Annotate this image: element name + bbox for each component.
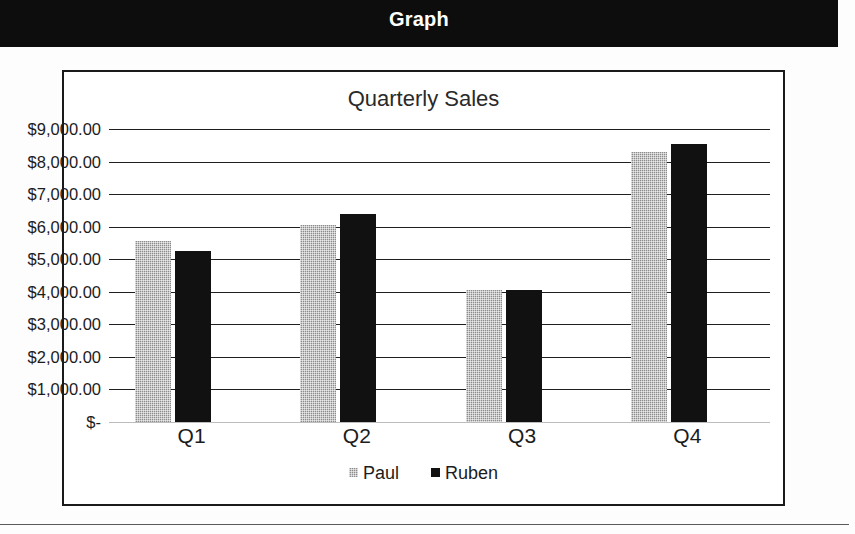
legend-item-ruben: Ruben xyxy=(431,462,498,484)
bar-ruben-q3 xyxy=(506,290,542,422)
x-axis-tick-label: Q3 xyxy=(440,424,605,448)
legend-swatch-paul-icon xyxy=(349,468,358,477)
legend-item-paul: Paul xyxy=(349,462,399,484)
y-axis-tick-label: $8,000.00 xyxy=(0,152,101,171)
bar-paul-q2 xyxy=(300,225,336,422)
bar-group xyxy=(274,133,439,422)
x-axis-tick-label: Q4 xyxy=(605,424,770,448)
x-axis-tick-label: Q1 xyxy=(109,424,274,448)
y-axis-tick-label: $9,000.00 xyxy=(0,120,101,139)
page-bottom-rule xyxy=(0,524,849,525)
bar-ruben-q1 xyxy=(175,251,211,422)
bar-ruben-q2 xyxy=(340,214,376,422)
page-header-band: Graph xyxy=(0,0,838,47)
bar-group xyxy=(109,133,274,422)
gridline xyxy=(109,422,770,423)
y-axis-tick-label: $6,000.00 xyxy=(0,217,101,236)
bar-ruben-q4 xyxy=(671,144,707,422)
bar-series-container xyxy=(109,133,770,422)
bar-paul-q4 xyxy=(631,152,667,422)
page-canvas: Graph Quarterly Sales $9,000.00$8,000.00… xyxy=(0,0,855,534)
y-axis-tick-label: $7,000.00 xyxy=(0,185,101,204)
x-axis-tick-label: Q2 xyxy=(274,424,439,448)
bar-group xyxy=(440,133,605,422)
legend-swatch-ruben-icon xyxy=(431,468,440,477)
page-title: Graph xyxy=(0,8,838,31)
y-axis-tick-label: $1,000.00 xyxy=(0,380,101,399)
y-axis-tick-label: $5,000.00 xyxy=(0,250,101,269)
y-axis-tick-label: $4,000.00 xyxy=(0,282,101,301)
legend-label: Ruben xyxy=(445,463,498,483)
chart-title: Quarterly Sales xyxy=(64,86,783,112)
bar-paul-q3 xyxy=(466,290,502,422)
legend-label: Paul xyxy=(363,463,399,483)
chart-plot-area: $9,000.00$8,000.00$7,000.00$6,000.00$5,0… xyxy=(109,129,770,422)
bar-group xyxy=(605,133,770,422)
y-axis-tick-label: $- xyxy=(0,413,101,432)
bar-paul-q1 xyxy=(135,241,171,422)
y-axis-tick-label: $3,000.00 xyxy=(0,315,101,334)
x-axis-labels: Q1Q2Q3Q4 xyxy=(109,424,770,454)
chart-legend: PaulRuben xyxy=(64,462,783,484)
y-axis-tick-label: $2,000.00 xyxy=(0,347,101,366)
chart-frame: Quarterly Sales $9,000.00$8,000.00$7,000… xyxy=(62,70,785,506)
gridline xyxy=(109,129,770,130)
